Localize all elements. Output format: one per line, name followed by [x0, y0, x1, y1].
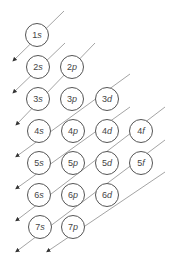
orbital-l: f: [142, 158, 145, 168]
orbital-l: s: [38, 94, 43, 104]
orbital-4f: 4f: [129, 119, 153, 143]
orbital-l: s: [38, 62, 43, 72]
orbital-l: s: [39, 190, 44, 200]
orbital-4d: 4d: [95, 119, 119, 143]
orbital-l: p: [73, 126, 78, 136]
orbital-l: p: [73, 158, 78, 168]
orbital-5p: 5p: [61, 151, 85, 175]
orbital-3p: 3p: [60, 87, 84, 111]
orbital-l: s: [39, 158, 44, 168]
orbital-3d: 3d: [95, 87, 119, 111]
orbital-l: d: [107, 158, 112, 168]
arrow-diagonal-3: [17, 43, 95, 124]
orbital-7s: 7s: [28, 215, 52, 239]
orbital-l: s: [37, 30, 42, 40]
orbital-5s: 5s: [27, 151, 51, 175]
orbital-6s: 6s: [27, 183, 51, 207]
orbital-3s: 3s: [26, 87, 50, 111]
orbital-l: d: [107, 126, 112, 136]
orbital-l: s: [40, 222, 45, 232]
orbital-4p: 4p: [61, 119, 85, 143]
orbital-l: p: [72, 94, 77, 104]
orbital-5d: 5d: [95, 151, 119, 175]
orbital-l: p: [73, 222, 78, 232]
orbital-1s: 1s: [25, 23, 49, 47]
orbital-2s: 2s: [26, 55, 50, 79]
orbital-l: f: [142, 126, 145, 136]
orbital-6p: 6p: [61, 183, 85, 207]
orbital-l: s: [39, 126, 44, 136]
orbital-6d: 6d: [95, 183, 119, 207]
orbital-l: d: [107, 94, 112, 104]
orbital-4s: 4s: [27, 119, 51, 143]
orbital-2p: 2p: [60, 55, 84, 79]
orbital-l: p: [73, 190, 78, 200]
orbital-7p: 7p: [61, 215, 85, 239]
orbital-5f: 5f: [129, 151, 153, 175]
orbital-l: d: [107, 190, 112, 200]
aufbau-diagram: 1s2s2p3s3p3d4s4p4d4f5s5p5d5f6s6p6d7s7p: [0, 0, 175, 258]
orbital-l: p: [72, 62, 77, 72]
